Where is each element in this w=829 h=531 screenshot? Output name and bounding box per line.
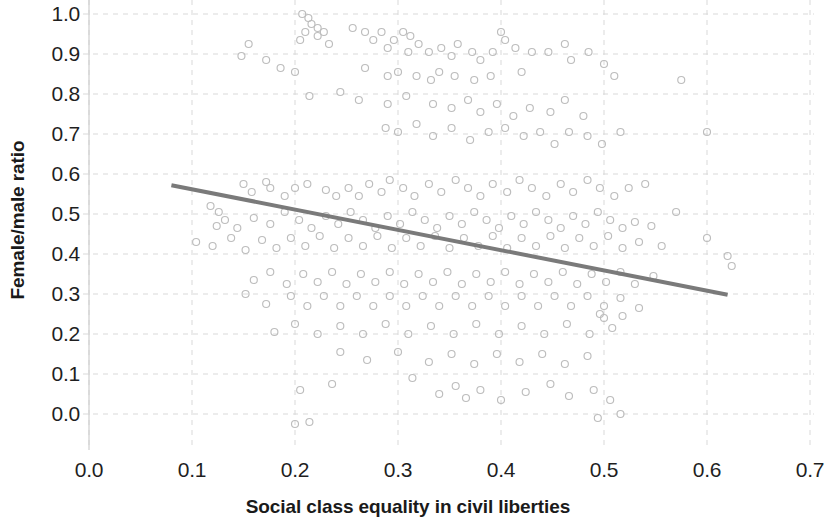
data-point [557,225,564,232]
data-point [590,387,597,394]
data-point [547,233,554,240]
data-point [415,41,422,48]
data-point [580,113,587,120]
data-point [518,235,525,242]
data-point [425,181,432,188]
data-point [304,303,311,310]
data-point [390,37,397,44]
data-point [557,181,564,188]
data-point [242,247,249,254]
data-point [448,105,455,112]
data-point [193,239,200,246]
data-point [619,313,626,320]
data-point [642,181,649,188]
data-point [594,415,601,422]
data-point [545,217,552,224]
data-point [565,393,572,400]
data-point [234,225,241,232]
data-point [568,57,575,64]
data-point [458,281,465,288]
data-point [329,269,336,276]
data-point [250,215,257,222]
data-point [382,321,389,328]
data-point [364,357,371,364]
data-point [436,391,443,398]
data-point [636,305,643,312]
data-point [590,243,597,250]
data-point [485,129,492,136]
data-point [259,237,266,244]
data-point [228,235,235,242]
data-point [388,245,395,252]
data-point [510,113,517,120]
data-point [452,177,459,184]
data-point [561,97,568,104]
data-point [366,181,373,188]
data-point [409,375,416,382]
data-point [584,353,591,360]
data-point [617,295,624,302]
data-point [378,29,385,36]
data-point [619,245,626,252]
data-point [561,41,568,48]
data-point [582,221,589,228]
data-point [267,269,274,276]
data-point [370,303,377,310]
data-point [337,323,344,330]
trend-line [171,185,727,295]
data-point [213,223,220,230]
data-point [563,321,570,328]
data-point [207,203,214,210]
data-point [400,185,407,192]
data-point [576,235,583,242]
data-point [427,77,434,84]
data-point [728,263,735,270]
data-point [267,221,274,228]
data-point [403,303,410,310]
data-point [502,37,509,44]
data-point [547,109,554,116]
data-point [469,303,476,310]
data-point [619,225,626,232]
data-point [625,185,632,192]
data-point [417,243,424,250]
data-point [462,395,469,402]
data-point [245,41,252,48]
data-point [636,239,643,246]
data-point [502,269,509,276]
data-point [362,65,369,72]
data-point [316,233,323,240]
data-point [631,219,638,226]
data-point [588,271,595,278]
data-point [419,293,426,300]
data-point [547,381,554,388]
data-point [467,137,474,144]
data-point [263,57,270,64]
data-point [520,221,527,228]
data-point [314,279,321,286]
data-point [444,269,451,276]
data-point [320,29,327,36]
data-point [415,271,422,278]
data-point [574,281,581,288]
data-point [617,129,624,136]
data-point [287,235,294,242]
data-point [329,381,336,388]
data-point [607,397,614,404]
data-point [565,129,572,136]
data-point [516,281,523,288]
data-point [250,277,257,284]
data-point [296,217,303,224]
data-point [386,269,393,276]
data-point [300,271,307,278]
data-point [518,69,525,76]
data-point [596,185,603,192]
data-point [345,185,352,192]
data-point [400,29,407,36]
data-point [281,193,288,200]
data-point [489,49,496,56]
data-point [518,323,525,330]
data-point [526,105,533,112]
grid-lines [83,0,814,450]
